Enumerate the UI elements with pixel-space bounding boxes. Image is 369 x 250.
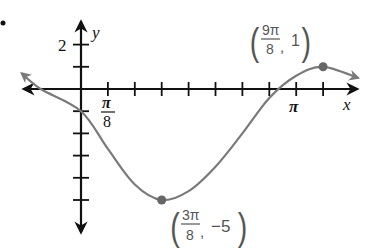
max-y-value: 1 [291,32,300,49]
y-tick-label-2: 2 [58,36,67,55]
pi-over-8-numerator: π [102,94,112,111]
min-point-marker [157,196,166,205]
left-paren: ( [250,21,259,63]
sinusoid-curve [22,67,358,200]
max-point-marker [319,62,328,71]
max-x-numerator: 9π [262,22,280,38]
comma: , [200,223,204,240]
max-point-label: ( 9π 8 , 1 ) [250,21,311,63]
problem-bullet [1,21,6,26]
left-paren: ( [170,206,179,248]
pi-over-8-denominator: 8 [103,113,111,130]
min-y-value: −5 [211,217,230,236]
min-x-denominator: 8 [186,227,194,243]
x-axis-label: x [342,95,351,114]
x-tick-label-pi-over-8: π 8 [101,94,115,130]
min-x-numerator: 3π [182,207,200,223]
x-tick-label-pi: π [289,97,299,116]
min-point-label: ( 3π 8 , −5 ) [170,206,247,248]
right-paren: ) [302,21,311,63]
y-axis-label: y [90,23,100,42]
sinusoid-graph: y x 2 π 8 π ( 9π 8 , 1 ) ( 3π 8 , −5 ) [0,0,369,250]
comma: , [280,38,284,55]
max-x-denominator: 8 [266,41,274,57]
right-paren: ) [238,206,247,248]
